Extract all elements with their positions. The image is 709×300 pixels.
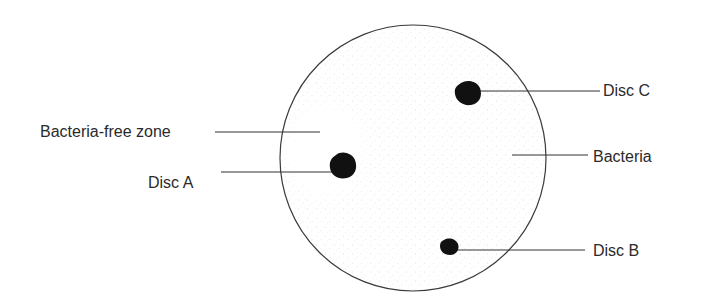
label-disc-b: Disc B: [593, 242, 639, 260]
label-bacteria: Bacteria: [593, 148, 652, 166]
bacteria-free-zone: [280, 95, 370, 205]
label-disc-a: Disc A: [148, 174, 193, 192]
label-disc-c: Disc C: [603, 82, 650, 100]
label-bacteria-free-zone: Bacteria-free zone: [40, 123, 171, 141]
